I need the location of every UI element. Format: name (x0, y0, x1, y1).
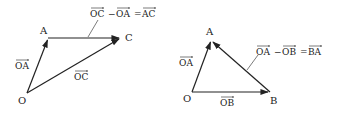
vector-diagram: O A C OA OC OC − OA = AC (0, 0, 344, 115)
svg-text:OB: OB (220, 98, 234, 108)
svg-text:OB: OB (282, 47, 296, 57)
svg-text:=: = (134, 9, 142, 19)
left-vector-oc-label: OC (74, 71, 88, 82)
right-vector-oa-arrow (192, 42, 211, 92)
right-point-a-label: A (205, 26, 214, 37)
right-equation: OA − OB = BA (256, 46, 322, 57)
right-point-b-label: B (270, 95, 277, 106)
right-point-o-label: O (183, 93, 191, 104)
right-leader-line (247, 55, 258, 70)
left-vector-oa-label: OA (15, 60, 29, 71)
svg-text:AC: AC (141, 9, 155, 19)
svg-text:OA: OA (256, 47, 270, 57)
svg-text:=: = (300, 47, 308, 57)
svg-text:OC: OC (90, 9, 104, 19)
left-figure: O A C OA OC OC − OA = AC (15, 8, 156, 106)
svg-text:OA: OA (116, 9, 130, 19)
left-point-o-label: O (18, 95, 26, 106)
svg-text:OC: OC (74, 72, 88, 82)
svg-text:BA: BA (308, 47, 322, 57)
left-point-a-label: A (39, 25, 48, 36)
right-figure: O A B OA OB OA − OB = BA (179, 26, 322, 108)
left-vector-oc-arrow (27, 39, 119, 93)
svg-text:−: − (274, 47, 282, 57)
left-vector-oa-arrow (27, 40, 48, 93)
left-point-c-label: C (125, 32, 133, 43)
svg-text:OA: OA (15, 61, 29, 71)
right-vector-oa-label: OA (179, 57, 193, 68)
svg-text:−: − (108, 9, 116, 19)
svg-text:OA: OA (179, 58, 193, 68)
left-leader-line (88, 20, 98, 37)
left-equation: OC − OA = AC (90, 8, 156, 19)
right-vector-ob-label: OB (220, 97, 234, 108)
